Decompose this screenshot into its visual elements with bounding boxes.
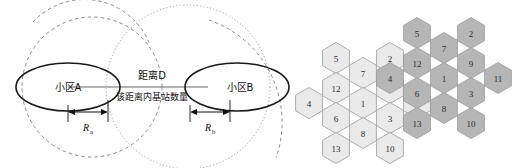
hex-cell-number: 7: [442, 44, 447, 54]
hex-cell-number: 1: [442, 74, 447, 84]
hex-cell-number: 10: [467, 119, 477, 129]
hex-cell-number: 9: [469, 59, 474, 69]
hex-cell-number: 7: [361, 69, 366, 79]
station-count-label: 该距离内基站数量: [116, 91, 188, 102]
radius-a-arrowhead-right: [101, 109, 108, 115]
diagram-canvas: 小区A 小区B 距离D 该距离内基站数量 R a: [0, 0, 513, 168]
hex-cell-number: 13: [332, 144, 342, 154]
radius-b-subscript: b: [212, 128, 216, 136]
distance-label: 距离D: [138, 69, 166, 81]
hex-cell-number: 4: [307, 99, 312, 109]
hex-cell-number: 8: [442, 104, 447, 114]
hex-cell-number: 5: [334, 54, 339, 64]
hex-cell-number: 5: [415, 29, 420, 39]
hex-cell-number: 6: [334, 114, 339, 124]
cell-a-label: 小区A: [55, 82, 82, 93]
hex-cell-number: 8: [361, 129, 366, 139]
hex-cell-number: 2: [469, 29, 474, 39]
hex-cell-number: 3: [469, 89, 474, 99]
hex-cell-number: 2: [388, 54, 393, 64]
hex-cell-number: 12: [413, 59, 422, 69]
radius-b-dimension: R b: [190, 100, 230, 136]
hex-cell-number: 3: [388, 114, 393, 124]
hex-cluster-panel: 5271294111638131052712941116381310: [296, 18, 512, 164]
hex-cell-number: 11: [494, 74, 503, 84]
radius-b-arrowhead-left: [190, 109, 197, 115]
hex-cell-number: 1: [361, 99, 366, 109]
figure-root: 小区A 小区B 距离D 该距离内基站数量 R a: [0, 0, 513, 168]
hex-cell-number: 10: [386, 144, 396, 154]
radius-a-subscript: a: [90, 128, 94, 136]
hex-cell-number: 4: [388, 74, 393, 84]
coverage-arc-left: [33, 0, 150, 45]
hex-cell-number: 12: [332, 84, 341, 94]
hex-cell-number: 13: [413, 119, 423, 129]
cell-b-label: 小区B: [227, 82, 254, 93]
radius-a-label: R: [82, 122, 89, 133]
radius-b-label: R: [204, 122, 211, 133]
left-panel-group: 小区A 小区B 距离D 该距离内基站数量 R a: [16, 0, 289, 168]
radius-a-arrowhead-left: [68, 109, 75, 115]
hex-cell-number: 6: [415, 89, 420, 99]
